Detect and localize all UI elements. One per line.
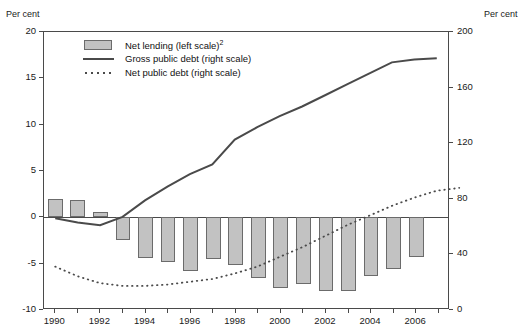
x-axis-tick-mark [348, 309, 349, 313]
legend-footnote-marker: 2 [220, 39, 224, 46]
left-axis-title: Per cent [6, 9, 40, 19]
right-axis-tick-label: 200 [457, 25, 491, 36]
right-axis-tick-label: 160 [457, 81, 491, 92]
chart-legend: Net lending (left scale)2Gross public de… [82, 38, 251, 80]
x-axis-tick-label: 1998 [215, 315, 255, 326]
right-axis-title: Per cent [484, 9, 518, 19]
x-axis-tick-mark [54, 309, 55, 313]
x-axis-tick-mark [415, 309, 416, 313]
legend-item-label: Net public debt (right scale) [125, 67, 241, 79]
x-axis-tick-mark [370, 309, 371, 313]
x-axis-tick-label: 2006 [395, 315, 435, 326]
right-axis-tick-mark [449, 309, 453, 310]
x-axis-tick-label: 1990 [34, 315, 74, 326]
x-axis-tick-mark [325, 309, 326, 313]
left-axis-tick-label: -5 [4, 257, 36, 268]
legend-item: Gross public debt (right scale) [82, 52, 251, 66]
x-axis-tick-mark [77, 309, 78, 313]
legend-key-bar-swatch [82, 39, 116, 51]
x-axis-tick-mark [122, 309, 123, 313]
left-axis-tick-label: 0 [4, 210, 36, 221]
net-public-debt-line [55, 188, 459, 286]
chart-root: Per cent Per cent 20151050-5-10 20016012… [0, 0, 522, 336]
x-axis-tick-label: 2004 [350, 315, 390, 326]
left-axis-tick-mark [39, 309, 43, 310]
legend-item: Net lending (left scale)2 [82, 38, 251, 52]
legend-item-label: Gross public debt (right scale) [125, 53, 251, 65]
x-axis-tick-mark [280, 309, 281, 313]
left-axis-tick-label: 15 [4, 71, 36, 82]
legend-item: Net public debt (right scale) [82, 66, 251, 80]
left-axis-tick-label: 10 [4, 118, 36, 129]
x-axis-tick-mark [302, 309, 303, 313]
x-axis-tick-label: 1994 [125, 315, 165, 326]
right-axis-tick-mark [449, 198, 453, 199]
x-axis-tick-mark [235, 309, 236, 313]
x-axis-tick-mark [99, 309, 100, 313]
x-axis-tick-label: 1996 [170, 315, 210, 326]
x-axis-tick-mark [212, 309, 213, 313]
right-axis-tick-mark [449, 253, 453, 254]
right-axis-tick-mark [449, 87, 453, 88]
x-axis-tick-mark [190, 309, 191, 313]
left-axis-tick-label: 5 [4, 164, 36, 175]
right-axis-tick-label: 40 [457, 247, 491, 258]
x-axis-tick-label: 1992 [79, 315, 119, 326]
right-axis-tick-mark [449, 142, 453, 143]
x-axis-tick-mark [167, 309, 168, 313]
right-axis-tick-mark [449, 31, 453, 32]
right-axis-tick-label: 80 [457, 192, 491, 203]
legend-item-label: Net lending (left scale)2 [125, 37, 223, 52]
x-axis-tick-label: 2002 [305, 315, 345, 326]
x-axis-tick-mark [257, 309, 258, 313]
x-axis-tick-mark [393, 309, 394, 313]
legend-key-dotted-line [82, 67, 116, 79]
solid-line-icon [83, 58, 114, 60]
legend-key-solid-line [82, 53, 116, 65]
x-axis-tick-label: 2000 [260, 315, 300, 326]
left-axis-tick-label: 20 [4, 25, 36, 36]
right-axis-tick-label: 120 [457, 136, 491, 147]
x-axis-tick-mark [438, 309, 439, 313]
left-axis-tick-label: -10 [4, 303, 36, 314]
x-axis-tick-mark [145, 309, 146, 313]
dotted-line-icon [83, 72, 114, 74]
gross-public-debt-line [55, 58, 437, 225]
right-axis-tick-label: 0 [457, 303, 491, 314]
bar-swatch-icon [84, 40, 112, 50]
